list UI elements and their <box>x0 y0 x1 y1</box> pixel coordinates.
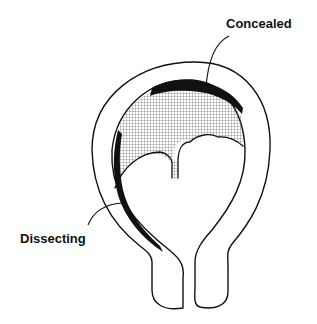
dissecting-label: Dissecting <box>20 232 86 245</box>
cord-stalk <box>172 160 178 178</box>
concealed-label: Concealed <box>226 17 292 30</box>
uterus-diagram <box>0 0 317 324</box>
